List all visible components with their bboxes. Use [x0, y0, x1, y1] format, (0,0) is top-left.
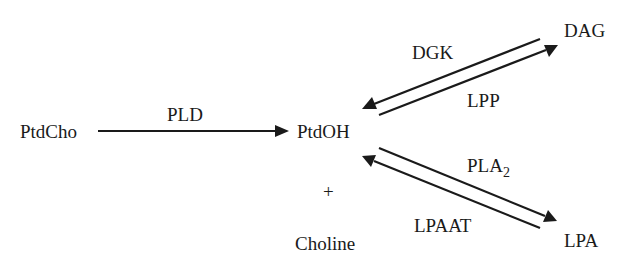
plus-sign: +	[323, 181, 334, 202]
enzyme-pld: PLD	[167, 104, 203, 125]
enzyme-pla2: PLA2	[467, 155, 510, 180]
enzyme-lpp: LPP	[467, 90, 500, 111]
node-ptdcho: PtdCho	[20, 121, 77, 142]
enzyme-dgk: DGK	[412, 42, 453, 63]
pathway-diagram: PtdCho PtdOH DAG LPA + Choline PLD DGK L…	[0, 0, 630, 267]
node-ptdoh: PtdOH	[297, 121, 350, 142]
arrow-pld	[98, 125, 289, 137]
enzyme-lpaat: LPAAT	[414, 215, 472, 236]
node-dag: DAG	[564, 20, 605, 41]
node-choline: Choline	[295, 233, 355, 254]
node-lpa: LPA	[564, 230, 598, 251]
